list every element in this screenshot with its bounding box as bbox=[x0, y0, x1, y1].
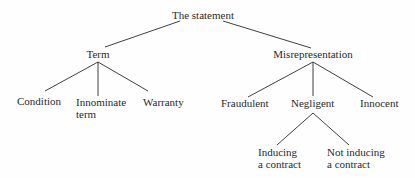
node-label: Innocent bbox=[360, 97, 398, 109]
node-label-line-1: Not inducing bbox=[327, 147, 385, 158]
edge-root-term bbox=[105, 21, 180, 47]
node-label: Negligent bbox=[291, 97, 334, 109]
node-condition: Condition bbox=[17, 96, 61, 107]
edge-negligent-not-inducing bbox=[313, 113, 349, 145]
node-negligent: Negligent bbox=[291, 98, 334, 109]
node-label: Misrepresentation bbox=[273, 48, 352, 60]
node-innocent: Innocent bbox=[360, 98, 398, 109]
node-label: Warranty bbox=[143, 96, 184, 108]
node-label: Condition bbox=[17, 95, 61, 107]
node-label: The statement bbox=[172, 9, 234, 21]
edge-misrep-fraudulent bbox=[248, 62, 313, 97]
node-inducing-a-contract: Inducing a contract bbox=[258, 147, 301, 170]
node-not-inducing-a-contract: Not inducing a contract bbox=[327, 147, 385, 170]
statement-classification-diagram: The statement Term Misrepresentation Con… bbox=[0, 0, 415, 178]
node-label-line-2: a contract bbox=[258, 159, 301, 170]
node-innominate-term: Innominate term bbox=[76, 97, 126, 120]
edge-negligent-inducing bbox=[277, 113, 313, 145]
node-term: Term bbox=[86, 49, 109, 60]
edge-misrep-innocent bbox=[313, 62, 373, 97]
edge-term-condition bbox=[45, 62, 98, 91]
node-label-line-2: a contract bbox=[327, 159, 385, 170]
edge-root-misrepresentation bbox=[223, 21, 311, 48]
node-fraudulent: Fraudulent bbox=[221, 98, 269, 109]
node-label-line-1: Inducing bbox=[258, 147, 301, 158]
node-label-line-2: term bbox=[76, 109, 126, 120]
node-warranty: Warranty bbox=[143, 97, 184, 108]
edge-term-warranty bbox=[98, 62, 148, 91]
node-label-line-1: Innominate bbox=[76, 97, 126, 108]
node-misrepresentation: Misrepresentation bbox=[273, 49, 352, 60]
node-the-statement: The statement bbox=[172, 10, 234, 21]
node-label: Term bbox=[86, 48, 109, 60]
node-label: Fraudulent bbox=[221, 97, 269, 109]
